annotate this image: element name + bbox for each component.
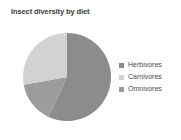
- legend-swatch-icon-omnivores: [119, 87, 124, 92]
- chart-legend: Herbivores Carnivores Omnivores: [119, 59, 179, 95]
- page-title: Insect diversity by diet: [11, 7, 89, 16]
- legend-item-omnivores[interactable]: Omnivores: [119, 83, 179, 95]
- legend-swatch-icon-herbivores: [119, 63, 124, 68]
- legend-swatch-icon-carnivores: [119, 75, 124, 80]
- pie-slice-carnivores[interactable]: [23, 33, 67, 85]
- legend-label-herbivores: Herbivores: [128, 59, 162, 71]
- legend-item-carnivores[interactable]: Carnivores: [119, 71, 179, 83]
- legend-label-carnivores: Carnivores: [128, 71, 162, 83]
- pie-svg: [23, 33, 111, 121]
- legend-label-omnivores: Omnivores: [128, 83, 162, 95]
- pie-slices: [23, 33, 111, 121]
- legend-item-herbivores[interactable]: Herbivores: [119, 59, 179, 71]
- pie-chart-plot-area: [23, 33, 111, 121]
- pie-chart-figure: Insect diversity by diet Herbivores Carn…: [0, 0, 181, 140]
